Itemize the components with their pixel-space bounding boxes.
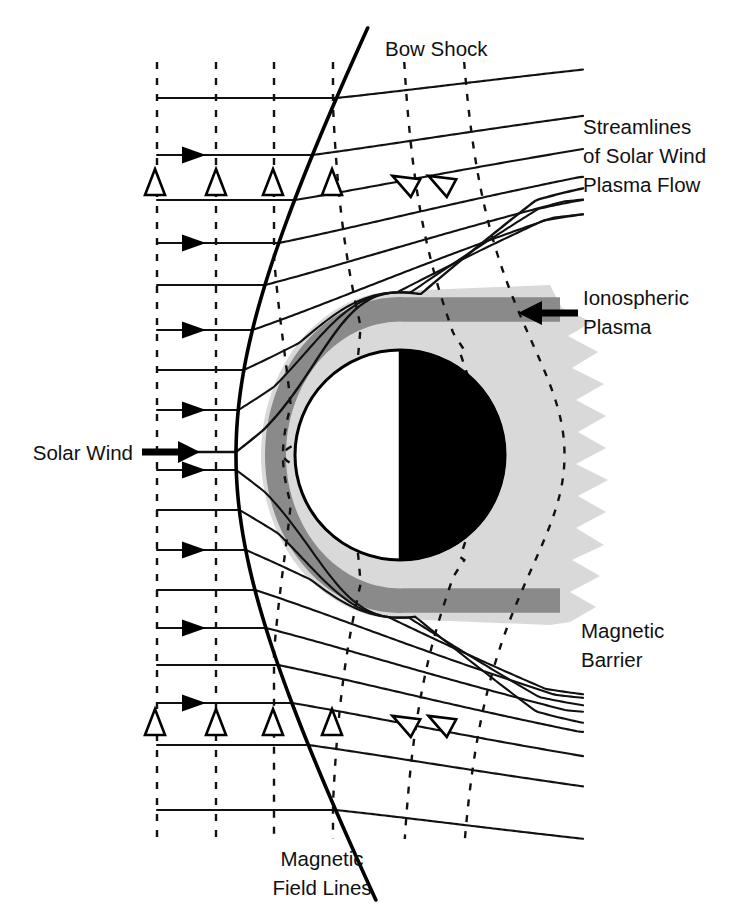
label-solar-wind: Solar Wind — [33, 441, 133, 464]
solar-wind-interaction-diagram: Bow ShockStreamlinesof Solar WindPlasma … — [0, 0, 734, 924]
label-streamlines: Streamlinesof Solar WindPlasma Flow — [583, 115, 706, 196]
diagram-canvas: Bow ShockStreamlinesof Solar WindPlasma … — [0, 0, 734, 924]
label-bow-shock: Bow Shock — [385, 37, 488, 60]
planet-disk — [295, 350, 505, 560]
